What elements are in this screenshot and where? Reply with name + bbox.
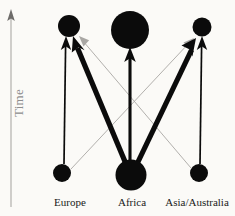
edge-africa-to-asia: [137, 38, 196, 164]
edge-africa-to-europe: [72, 36, 126, 164]
edge-europe-continuity: [61, 36, 71, 164]
time-axis-label: Time: [11, 73, 27, 133]
column-label-europe: Europe: [38, 196, 102, 208]
node-europe-past[interactable]: [53, 164, 71, 182]
node-asia-past[interactable]: [190, 164, 208, 182]
edge-line: [200, 46, 202, 164]
node-africa-past[interactable]: [116, 160, 147, 191]
edge-line: [64, 46, 66, 164]
edge-asia-continuity: [197, 36, 207, 164]
edge-arrowhead: [79, 36, 89, 47]
edge-asia-to-europe: [79, 36, 191, 168]
node-africa-present[interactable]: [111, 11, 149, 49]
node-asia-present[interactable]: [193, 18, 212, 37]
column-label-asia-australia: Asia/Australia: [158, 196, 235, 208]
node-europe-present[interactable]: [58, 15, 80, 37]
figure-canvas: Time Europe Africa Asia/Australia: [0, 0, 235, 216]
column-label-africa: Africa: [104, 196, 160, 208]
edge-africa-continuity: [124, 47, 136, 162]
edge-line: [137, 50, 192, 164]
edge-line: [78, 48, 127, 164]
migration-diagram: [0, 0, 235, 216]
